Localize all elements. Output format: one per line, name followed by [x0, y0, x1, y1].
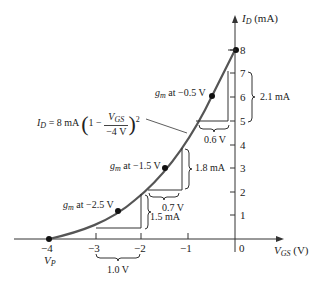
y-ticks: [230, 50, 235, 215]
x-axis-arrow-icon: [276, 236, 284, 242]
y-axis-label: ID (mA): [242, 13, 278, 26]
point-gm-05: [209, 93, 215, 99]
gm-15-text: at −1.5 V: [121, 160, 161, 171]
eq-num-sub: GS: [114, 115, 124, 124]
pinchoff-sub: P: [51, 259, 56, 268]
y-tick-4: 4: [240, 140, 246, 151]
gm-label-15: gm at −1.5 V: [110, 161, 161, 173]
x-axis-sub: GS: [281, 249, 291, 258]
x-tick-neg1: −1: [180, 243, 192, 254]
y-tick-2: 2: [240, 187, 246, 198]
eq-one-minus: 1 −: [89, 117, 102, 128]
x-axis-symbol: V: [274, 244, 281, 256]
brace-1-8mA: [185, 149, 192, 189]
delta-i-05: 2.1 mA: [260, 92, 290, 102]
delta-i-25: 1.5 mA: [150, 212, 180, 222]
pinchoff-label: VP: [44, 255, 56, 268]
delta-i-15: 1.8 mA: [195, 163, 225, 173]
gm-label-05: gm at −0.5 V: [155, 88, 206, 100]
brace-0-7V: [149, 193, 179, 200]
eq-denominator: −4 V: [104, 126, 128, 137]
point-gm-25: [115, 208, 121, 214]
equation: ID = 8 mA (1 − VGS −4 V )2: [37, 111, 140, 137]
y-tick-1: 1: [240, 210, 246, 221]
eq-fraction: VGS −4 V: [104, 111, 128, 137]
gm-25-text: at −2.5 V: [74, 199, 114, 210]
x-axis-label: VGS (V): [274, 245, 309, 258]
brace-0-6V: [199, 125, 229, 132]
brace-2-1mA: [248, 72, 255, 122]
x-ticks: [96, 233, 188, 239]
x-tick-neg4: −4: [41, 243, 53, 254]
brace-1-0V: [96, 254, 140, 261]
eq-lhs-sub: D: [40, 121, 46, 130]
x-tick-neg2: −2: [134, 243, 146, 254]
x-tick-0: 0: [239, 243, 245, 254]
y-axis-unit: (mA): [254, 12, 278, 24]
equation-leader: [146, 119, 187, 133]
y-tick-3: 3: [240, 163, 246, 174]
x-tick-neg3: −3: [88, 243, 100, 254]
eq-close-paren: ): [128, 111, 135, 136]
y-axis-arrow-icon: [232, 15, 238, 23]
eq-equals: = 8 mA: [49, 117, 79, 128]
eq-exponent: 2: [136, 115, 140, 124]
point-gm-15: [162, 165, 168, 171]
y-axis-sub: D: [246, 17, 252, 26]
x-axis-unit: (V): [293, 244, 308, 256]
y-tick-6: 6: [240, 92, 246, 103]
delta-v-05: 0.6 V: [204, 135, 226, 145]
y-tick-7: 7: [240, 68, 246, 79]
gm-label-25: gm at −2.5 V: [63, 200, 114, 212]
delta-v-25: 1.0 V: [107, 265, 129, 275]
y-tick-8: 8: [240, 45, 246, 56]
gm-05-text: at −0.5 V: [166, 87, 206, 98]
eq-numerator: VGS: [104, 111, 128, 126]
y-tick-5: 5: [240, 116, 246, 127]
pinchoff-symbol: V: [44, 254, 51, 266]
eq-open-paren: (: [81, 111, 88, 136]
